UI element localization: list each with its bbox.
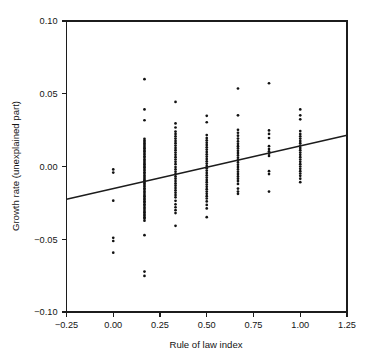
- data-point: [205, 181, 208, 184]
- data-point: [268, 148, 271, 151]
- data-point: [237, 137, 240, 140]
- data-point: [143, 108, 146, 111]
- data-point: [143, 234, 146, 237]
- data-point: [237, 149, 240, 152]
- data-point: [112, 171, 115, 174]
- data-point: [237, 190, 240, 193]
- data-point: [237, 193, 240, 196]
- data-point: [143, 78, 146, 81]
- data-point: [237, 147, 240, 150]
- data-point: [205, 183, 208, 186]
- data-point: [268, 82, 271, 85]
- data-point: [205, 195, 208, 198]
- data-point: [174, 144, 177, 147]
- data-point: [205, 188, 208, 191]
- data-point: [174, 199, 177, 202]
- data-point: [174, 147, 177, 150]
- data-point: [299, 170, 302, 173]
- data-point: [268, 129, 271, 132]
- data-point: [174, 177, 177, 180]
- data-point: [174, 182, 177, 185]
- data-point: [205, 200, 208, 203]
- data-point: [299, 114, 302, 117]
- data-point: [205, 172, 208, 175]
- data-point: [174, 154, 177, 157]
- data-point: [205, 174, 208, 177]
- y-tick-label: −0.10: [34, 307, 57, 317]
- y-tick-label: 0.05: [40, 89, 58, 99]
- data-point: [237, 131, 240, 134]
- data-point: [237, 170, 240, 173]
- data-point: [174, 140, 177, 143]
- x-axis-tick-labels: −0.250.000.250.500.751.001.25: [55, 320, 356, 330]
- x-tick-label: −0.25: [55, 320, 78, 330]
- data-point: [237, 173, 240, 176]
- data-point: [237, 152, 240, 155]
- data-point: [205, 139, 208, 142]
- data-point: [205, 160, 208, 163]
- data-point: [174, 101, 177, 104]
- data-point: [174, 225, 177, 228]
- data-point: [237, 134, 240, 137]
- data-point: [299, 135, 302, 138]
- data-point: [237, 163, 240, 166]
- data-point: [237, 128, 240, 131]
- scatter-points-group: [112, 78, 302, 277]
- x-tick-label: 0.50: [198, 320, 216, 330]
- data-point: [299, 156, 302, 159]
- data-point: [174, 187, 177, 190]
- data-point: [174, 142, 177, 145]
- data-point: [205, 115, 208, 118]
- data-point: [174, 126, 177, 129]
- data-point: [174, 191, 177, 194]
- data-point: [205, 169, 208, 172]
- data-point: [205, 137, 208, 140]
- data-point: [237, 175, 240, 178]
- data-point: [112, 199, 115, 202]
- data-point: [112, 240, 115, 243]
- data-point: [174, 122, 177, 125]
- data-point: [205, 148, 208, 151]
- data-point: [143, 219, 146, 222]
- data-point: [268, 155, 271, 158]
- data-point: [299, 174, 302, 177]
- x-tick-label: 0.00: [104, 320, 122, 330]
- data-point: [205, 151, 208, 154]
- y-tick-label: 0.10: [40, 16, 58, 26]
- data-point: [299, 130, 302, 133]
- data-point: [112, 236, 115, 239]
- x-tick-label: 0.75: [245, 320, 263, 330]
- data-point: [268, 173, 271, 176]
- data-point: [174, 189, 177, 192]
- data-point: [174, 203, 177, 206]
- data-point: [205, 146, 208, 149]
- data-point: [205, 176, 208, 179]
- data-point: [268, 190, 271, 193]
- chart-canvas: −0.250.000.250.500.751.001.25 −0.10−0.05…: [0, 0, 367, 362]
- data-point: [299, 142, 302, 145]
- data-point: [174, 194, 177, 197]
- data-point: [174, 160, 177, 163]
- data-point: [237, 161, 240, 164]
- data-point: [268, 170, 271, 173]
- data-point: [299, 172, 302, 175]
- data-point: [143, 275, 146, 278]
- data-point: [237, 156, 240, 159]
- data-point: [268, 145, 271, 148]
- data-point: [205, 162, 208, 165]
- data-point: [237, 187, 240, 190]
- scatter-plot-figure: −0.250.000.250.500.751.001.25 −0.10−0.05…: [0, 0, 367, 362]
- data-point: [174, 130, 177, 133]
- data-point: [205, 186, 208, 189]
- data-point: [299, 140, 302, 143]
- x-tick-label: 1.00: [291, 320, 309, 330]
- data-point: [205, 121, 208, 124]
- data-point: [299, 108, 302, 111]
- data-point: [174, 206, 177, 209]
- data-point: [205, 158, 208, 161]
- data-point: [237, 145, 240, 148]
- data-point: [205, 141, 208, 144]
- data-point: [174, 212, 177, 215]
- data-point: [268, 133, 271, 136]
- data-point: [237, 114, 240, 117]
